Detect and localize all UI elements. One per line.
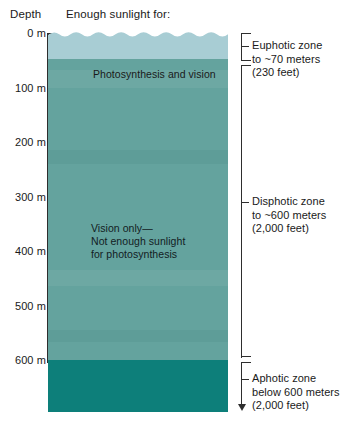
aphotic-layer-caption: No sunlight [131,415,189,425]
aphotic-layer-fill [48,360,228,412]
depth-tick-label-200: 200 m [2,136,46,148]
disphotic-bracket-pointer [241,202,249,203]
zone-break-mark-upper [241,65,251,66]
euphotic-bracket-bottom-cap [241,60,251,61]
euphotic-bracket-top-cap [241,33,251,34]
water-column-graphic [48,30,228,412]
depth-tick-label-0: 0 m [2,27,46,39]
depth-tick-label-400: 400 m [2,245,46,257]
disphotic-zone-label: Disphotic zone to ~600 meters (2,000 fee… [252,195,326,236]
water-column: Photosynthesis and vision Vision only— N… [48,30,228,412]
aphotic-bracket-pointer [241,379,249,380]
euphotic-layer-fill [48,30,228,59]
depth-tick-label-300: 300 m [2,191,46,203]
aphotic-down-arrow-icon [238,404,246,411]
column-heading: Enough sunlight for: [66,8,170,20]
depth-tick-label-600: 600 m [2,354,46,366]
euphotic-layer-caption: Photosynthesis and vision [93,68,216,81]
zone-break-mark-lower-b [241,362,251,363]
depth-axis-title: Depth [10,8,41,20]
aphotic-bracket-stem [241,362,242,406]
disphotic-layer-fill [48,59,228,360]
depth-tick-label-500: 500 m [2,300,46,312]
euphotic-zone-label: Euphotic zone to ~70 meters (230 feet) [252,39,322,80]
depth-tick-label-100: 100 m [2,82,46,94]
disphotic-bracket-stem [241,65,242,358]
aphotic-zone-label: Aphotic zone below 600 meters (2,000 fee… [252,372,340,413]
disphotic-layer-caption: Vision only— Not enough sunlight for pho… [91,222,185,262]
zone-break-mark-lower-a [241,356,251,357]
euphotic-bracket-stem [241,33,242,61]
euphotic-bracket-pointer [241,46,249,47]
ocean-light-zones-figure: Depth Enough sunlight for: 0 m 100 m 200… [0,0,362,425]
